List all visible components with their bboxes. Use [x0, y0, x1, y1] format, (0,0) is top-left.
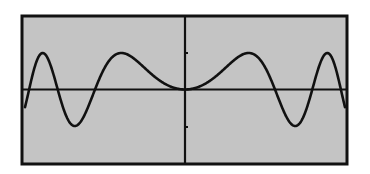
function-graph	[0, 0, 370, 174]
